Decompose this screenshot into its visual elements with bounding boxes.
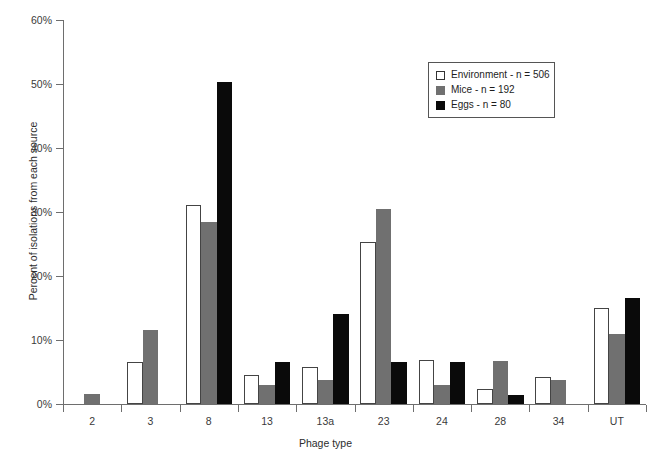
bar-mice-8: [201, 222, 217, 404]
bar-env-24: [419, 360, 435, 404]
x-axis-tick: [238, 405, 239, 412]
legend-item: Mice - n = 192: [436, 83, 548, 97]
x-axis-tick: [296, 405, 297, 412]
x-axis-tick: [355, 405, 356, 412]
x-axis-tick-label: 8: [179, 415, 239, 427]
bar-env-23: [360, 242, 376, 404]
bar-mice-3: [143, 330, 159, 404]
bar-mice-28: [493, 361, 509, 404]
legend-item-label: Eggs - n = 80: [451, 100, 511, 110]
bar-mice-23: [376, 209, 392, 404]
x-axis-tick-label: 3: [120, 415, 180, 427]
x-axis-tick-label: 2: [62, 415, 122, 427]
bar-mice-24: [434, 385, 450, 404]
bar-chart-figure: 0%10%20%30%40%50%60% Percent of isolatio…: [0, 0, 651, 461]
bar-env-34: [535, 377, 551, 404]
legend-item: Environment - n = 506: [436, 68, 548, 82]
bar-mice-34: [551, 380, 567, 404]
x-axis-tick: [529, 405, 530, 412]
bar-eggs-24: [450, 362, 466, 404]
x-axis-tick-label: 13: [237, 415, 297, 427]
chart-legend: Environment - n = 506Mice - n = 192Eggs …: [428, 62, 555, 118]
x-axis-tick: [63, 405, 64, 412]
x-axis-tick: [646, 405, 647, 412]
x-axis-tick-label: 28: [470, 415, 530, 427]
legend-item-label: Mice - n = 192: [451, 85, 515, 95]
x-axis-tick-label: 13a: [295, 415, 355, 427]
x-axis-title: Phage type: [0, 437, 651, 449]
bar-env-13: [244, 375, 260, 404]
bar-mice-13: [259, 385, 275, 404]
x-axis-tick: [121, 405, 122, 412]
legend-item-label: Environment - n = 506: [451, 70, 550, 80]
legend-item: Eggs - n = 80: [436, 98, 548, 112]
bar-mice-2: [84, 394, 100, 404]
bar-eggs-23: [391, 362, 407, 404]
x-axis-tick-label: UT: [587, 415, 647, 427]
x-axis-tick: [180, 405, 181, 412]
bar-eggs-8: [217, 82, 233, 404]
x-axis-tick: [588, 405, 589, 412]
bar-env-28: [477, 389, 493, 404]
x-axis-tick: [471, 405, 472, 412]
bar-env-13a: [302, 367, 318, 404]
x-axis-tick-label: 23: [354, 415, 414, 427]
bar-eggs-13a: [333, 314, 349, 404]
x-axis-tick-label: 24: [412, 415, 472, 427]
bar-eggs-UT: [625, 298, 641, 404]
legend-swatch-icon: [436, 86, 445, 95]
bar-eggs-28: [508, 395, 524, 404]
bar-env-3: [127, 362, 143, 404]
legend-swatch-icon: [436, 71, 445, 80]
bar-env-UT: [594, 308, 610, 404]
bar-mice-UT: [609, 334, 625, 404]
x-axis-tick-label: 34: [529, 415, 589, 427]
legend-swatch-icon: [436, 101, 445, 110]
x-axis-tick: [413, 405, 414, 412]
bar-env-8: [186, 205, 202, 404]
bar-mice-13a: [318, 380, 334, 404]
bar-eggs-13: [275, 362, 291, 404]
